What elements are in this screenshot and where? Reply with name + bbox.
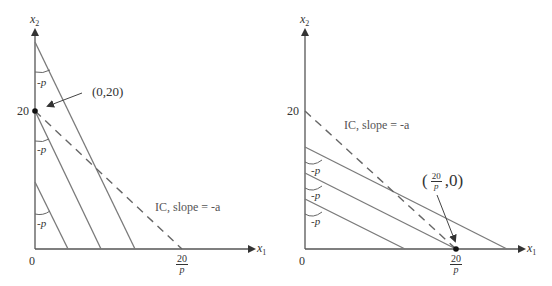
right-y-axis-label: x2 <box>300 12 309 28</box>
right-y-axis-label-sub: 2 <box>305 19 309 28</box>
left-angle-arc-2 <box>35 139 49 142</box>
left-angle-arc-1 <box>35 70 50 73</box>
right-ic-label: IC, slope = -a <box>344 118 409 133</box>
left-ic-label-text: IC, slope = -a <box>155 200 220 214</box>
right-point-label: ( 20 p ,0) <box>422 171 463 191</box>
left-ic-dashed-line <box>35 111 182 249</box>
left-budget-line-3 <box>35 182 68 249</box>
right-ic-label-text: IC, slope = -a <box>344 118 409 132</box>
right-x-axis-label: x1 <box>527 241 536 257</box>
left-angle-label-3: -p <box>37 217 46 229</box>
right-point-label-open: ( <box>422 171 428 191</box>
left-x-axis-label: x1 <box>257 241 266 257</box>
left-x-axis-label-sub: 1 <box>262 248 266 257</box>
left-x-tick-20-over-p: 20 p <box>176 254 188 275</box>
right-point-label-denominator: p <box>434 182 439 191</box>
left-angle-label-1: -p <box>37 76 46 88</box>
right-angle-label-2: -p <box>311 189 320 201</box>
right-x-axis-label-sub: 1 <box>532 248 536 257</box>
left-y-axis-label-sub: 2 <box>35 19 39 28</box>
right-point-label-frac: 20 p <box>431 172 442 191</box>
left-angle-arc-3 <box>35 211 50 215</box>
left-x-tick-denominator: p <box>180 265 185 275</box>
left-y-tick-20: 20 <box>17 104 29 119</box>
left-panel <box>32 30 254 249</box>
right-y-tick-20: 20 <box>287 104 299 119</box>
right-point-20p-0 <box>453 246 459 252</box>
right-angle-label-1: -p <box>311 164 320 176</box>
right-point-label-close: ,0) <box>445 171 463 191</box>
right-x-tick-denominator: p <box>454 265 459 275</box>
left-budget-line-1 <box>35 42 135 249</box>
right-budget-line-1 <box>305 147 507 249</box>
right-x-tick-20-over-p: 20 p <box>450 254 462 275</box>
left-ic-label: IC, slope = -a <box>155 200 220 215</box>
left-point-0-20 <box>32 108 38 114</box>
left-origin-label: 0 <box>29 254 35 269</box>
left-angle-label-2: -p <box>37 143 46 155</box>
right-panel <box>305 30 524 252</box>
left-point-label: (0,20) <box>92 84 123 100</box>
left-y-axis-label: x2 <box>30 12 39 28</box>
right-point-label-numerator: 20 <box>431 172 442 182</box>
diagram-canvas <box>0 0 552 286</box>
right-origin-label: 0 <box>299 254 305 269</box>
right-angle-label-3: -p <box>311 215 320 227</box>
